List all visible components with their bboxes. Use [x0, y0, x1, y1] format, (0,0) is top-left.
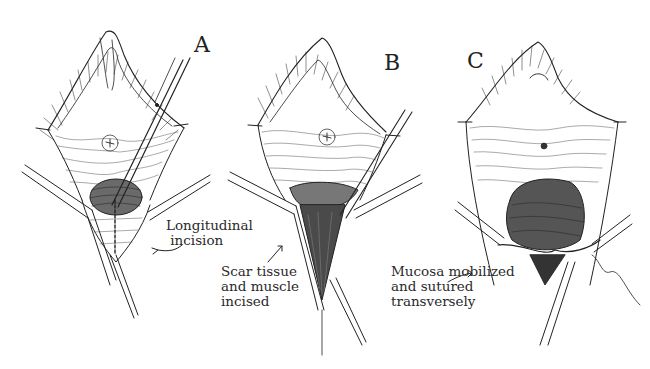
- panel-label-c: C: [467, 48, 484, 73]
- panel-a-drawing: [22, 31, 210, 318]
- caption-scar-tissue-incised: Scar tissue and muscle incised: [221, 264, 299, 309]
- caption-mucosa-mobilized: Mucosa mobilized and sutured transversel…: [391, 264, 515, 309]
- illustration-line-art: [0, 0, 650, 369]
- surgical-illustration: A B C Longitudinal incision Scar tissue …: [0, 0, 650, 369]
- panel-label-a: A: [194, 32, 210, 57]
- panel-label-b: B: [384, 50, 400, 75]
- caption-longitudinal-incision: Longitudinal incision: [166, 218, 253, 248]
